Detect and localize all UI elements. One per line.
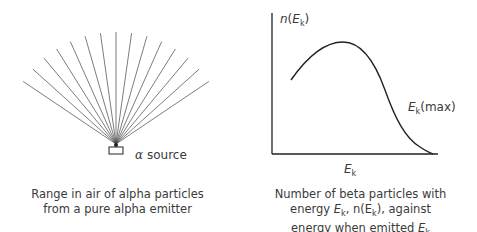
- alpha-ray: [57, 49, 116, 144]
- alpha-ray: [116, 36, 147, 144]
- alpha-caption-line1: Range in air of alpha particles: [20, 187, 215, 202]
- beta-caption-line2: energy Ek, n(Ek), against: [258, 202, 463, 221]
- source-point: [114, 143, 118, 147]
- alpha-ray: [116, 33, 132, 144]
- emax-label: Ek(max): [408, 100, 456, 116]
- alpha-ray: [116, 58, 188, 144]
- y-axis-label: n(Ek): [280, 12, 309, 28]
- beta-caption-line3: energy when emitted Ek: [258, 221, 463, 232]
- alpha-caption: Range in air of alpha particles from a p…: [20, 187, 215, 217]
- alpha-source-box: [109, 147, 123, 154]
- alpha-source-label: α source: [135, 148, 187, 162]
- x-axis-label: Ek: [344, 162, 356, 178]
- alpha-symbol: α: [135, 148, 143, 162]
- alpha-ray: [100, 33, 116, 144]
- alpha-ray: [116, 49, 175, 144]
- beta-caption: Number of beta particles with energy Ek,…: [258, 187, 463, 232]
- beta-caption-line1: Number of beta particles with: [258, 187, 463, 202]
- alpha-ray: [85, 36, 116, 144]
- alpha-ray: [33, 69, 116, 144]
- alpha-ray: [44, 58, 116, 144]
- source-word: source: [147, 148, 187, 162]
- beta-spectrum-curve: [291, 42, 433, 154]
- alpha-ray-fan: [23, 32, 209, 144]
- alpha-ray: [116, 69, 199, 144]
- alpha-caption-line2: from a pure alpha emitter: [20, 202, 215, 217]
